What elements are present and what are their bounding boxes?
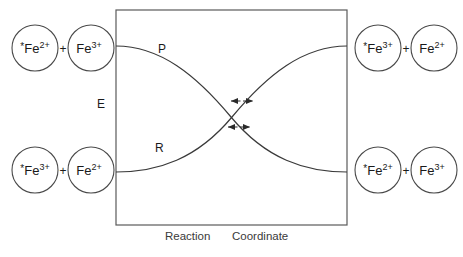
plus-operator-top-left: + xyxy=(59,42,66,56)
species-label-top-left-2: Fe3+ xyxy=(76,40,101,56)
state-bottom-right: *Fe2+ + Fe3+ xyxy=(355,147,457,193)
curve-label-r: R xyxy=(155,141,164,155)
plus-operator-bottom-right: + xyxy=(402,164,409,178)
state-top-right: *Fe3+ + Fe2+ xyxy=(355,25,457,71)
curve-r xyxy=(116,46,347,172)
species-label-top-right-1: *Fe3+ xyxy=(363,40,392,56)
species-label-bottom-left-2: Fe2+ xyxy=(76,162,101,178)
species-label-bottom-right-2: Fe3+ xyxy=(419,162,444,178)
plus-operator-bottom-left: + xyxy=(59,164,66,178)
species-label-top-right-2: Fe2+ xyxy=(419,40,444,56)
species-label-bottom-right-1: *Fe2+ xyxy=(363,162,392,178)
diagram-canvas: P R E Reaction Coordinate *Fe2+ + Fe3+ *… xyxy=(0,0,463,257)
crossing-gap-upper xyxy=(231,98,253,104)
species-label-bottom-left-1: *Fe3+ xyxy=(20,162,49,178)
reaction-coordinate-diagram: P R E Reaction Coordinate *Fe2+ + Fe3+ *… xyxy=(0,0,463,257)
curve-label-p: P xyxy=(158,42,166,56)
species-label-top-left-1: *Fe2+ xyxy=(20,40,49,56)
plus-operator-top-right: + xyxy=(402,42,409,56)
x-axis-label-reaction: Reaction xyxy=(165,230,210,242)
curve-p xyxy=(116,46,347,172)
state-bottom-left: *Fe3+ + Fe2+ xyxy=(12,147,114,193)
state-top-left: *Fe2+ + Fe3+ xyxy=(12,25,114,71)
y-axis-label: E xyxy=(97,97,105,111)
x-axis-label-coordinate: Coordinate xyxy=(232,230,288,242)
crossing-gap-lower xyxy=(228,124,250,130)
